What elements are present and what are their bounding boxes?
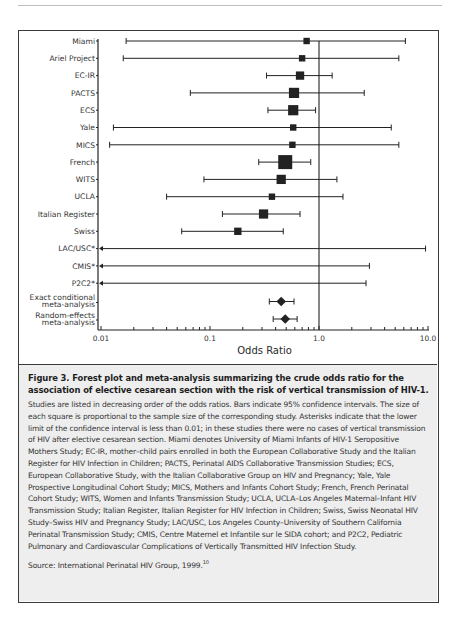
point-estimate-square — [259, 209, 268, 218]
point-estimate-square — [303, 38, 309, 44]
point-estimate-square — [290, 124, 296, 130]
meta-label: meta-analysis — [42, 300, 95, 309]
source-text: Source: International Perinatal HIV Grou… — [28, 561, 203, 570]
forest-plot: 0.010.11.010.0Odds RatioMiamiAriel Proje… — [19, 31, 437, 365]
meta-diamond-icon — [280, 314, 290, 324]
point-estimate-square — [289, 142, 295, 148]
point-estimate-square — [234, 228, 241, 235]
forest-plot-svg: 0.010.11.010.0Odds RatioMiamiAriel Proje… — [19, 31, 437, 365]
point-estimate-square — [296, 71, 304, 79]
x-axis-title: Odds Ratio — [237, 345, 292, 356]
study-label: WITS — [76, 175, 95, 184]
study-label: Ariel Project — [49, 54, 95, 63]
x-tick-label: 10.0 — [420, 334, 437, 343]
study-label: Yale — [79, 123, 95, 132]
study-label: UCLA — [75, 192, 96, 201]
study-label: P2C2* — [72, 279, 96, 288]
caption-body: Studies are listed in decreasing order o… — [28, 399, 429, 552]
study-label: French — [70, 158, 95, 167]
meta-diamond-icon — [276, 297, 286, 307]
point-estimate-square — [289, 88, 299, 98]
study-label: PACTS — [71, 89, 95, 98]
point-estimate-square — [288, 105, 298, 115]
x-tick-label: 0.01 — [93, 334, 110, 343]
left-arrow-icon — [99, 246, 103, 251]
study-label: LAC/USC* — [58, 244, 95, 253]
study-label: Italian Register — [38, 210, 96, 219]
study-label: EC-IR — [75, 71, 96, 80]
caption-title: Figure 3. Forest plot and meta-analysis … — [28, 372, 429, 396]
left-arrow-icon — [99, 281, 103, 286]
point-estimate-square — [278, 155, 292, 169]
figure-frame: 0.010.11.010.0Odds RatioMiamiAriel Proje… — [18, 30, 439, 603]
top-rule — [18, 5, 442, 6]
point-estimate-square — [299, 55, 305, 61]
x-tick-label: 0.1 — [204, 334, 216, 343]
study-label: ECS — [80, 106, 95, 115]
source-reference: 10 — [203, 559, 209, 565]
point-estimate-square — [269, 194, 275, 200]
study-label: Miami — [72, 37, 95, 46]
meta-label: meta-analysis — [42, 318, 95, 327]
x-tick-label: 1.0 — [313, 334, 325, 343]
study-label: MICS — [76, 141, 95, 150]
figure-caption: Figure 3. Forest plot and meta-analysis … — [19, 364, 437, 601]
left-arrow-icon — [99, 263, 103, 268]
caption-source: Source: International Perinatal HIV Grou… — [28, 556, 429, 572]
point-estimate-square — [277, 175, 286, 184]
study-label: CMIS* — [72, 262, 95, 271]
study-label: Swiss — [74, 227, 95, 236]
